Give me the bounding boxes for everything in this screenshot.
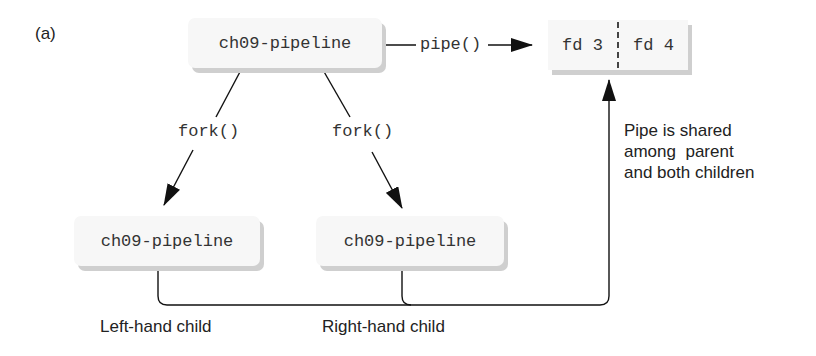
pipeline-fork-diagram: (a) ch09-pipeline pipe() fd 3 fd 4 fork(… [0,0,816,356]
fork-left-arrow [164,150,193,205]
right-child-label: ch09-pipeline [344,232,477,251]
fd-read-end: fd 3 [548,36,617,55]
fd-write-end: fd 4 [619,36,688,55]
fork-left-label: fork() [178,122,239,141]
left-child-box: ch09-pipeline [74,216,260,266]
right-child-join [402,267,411,305]
parent-process-label: ch09-pipeline [219,34,352,53]
fork-right-label: fork() [332,122,393,141]
shared-pipe-annotation: Pipe is shared among parent and both chi… [624,120,754,183]
annotation-line-3: and both children [624,162,754,183]
fork-left-line [216,70,241,117]
left-child-label: ch09-pipeline [101,232,234,251]
panel-label: (a) [35,24,56,44]
left-hand-child-caption: Left-hand child [100,317,212,337]
parent-process-box: ch09-pipeline [188,18,382,68]
pipe-call-label: pipe() [420,35,481,54]
children-to-pipe-path [158,80,609,305]
annotation-line-1: Pipe is shared [624,120,754,141]
pipe-fd-box: fd 3 fd 4 [548,20,688,70]
annotation-line-2: among parent [624,141,754,162]
fork-right-arrow [372,152,402,208]
fork-right-line [323,70,350,117]
right-hand-child-caption: Right-hand child [322,317,445,337]
right-child-box: ch09-pipeline [316,216,504,266]
